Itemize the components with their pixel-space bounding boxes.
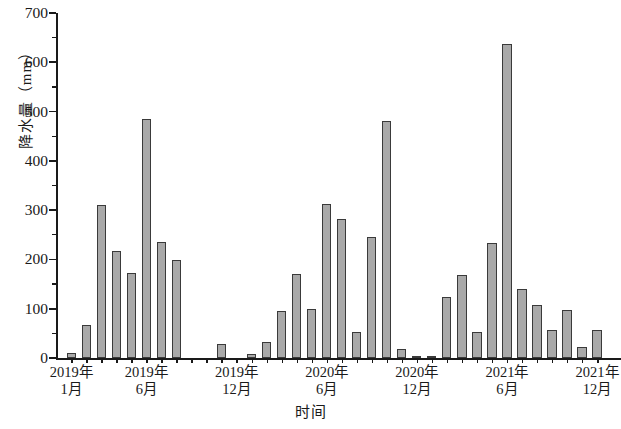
x-tick [492, 358, 493, 363]
x-tick-label-year: 2019年 [103, 364, 189, 381]
x-tick [342, 358, 343, 363]
x-axis-title: 时间 [0, 400, 621, 421]
x-tick [357, 358, 358, 363]
x-tick-label-month: 6月 [284, 381, 370, 398]
x-tick [552, 358, 553, 363]
x-tick [131, 358, 132, 363]
bar [97, 205, 106, 358]
bar [112, 251, 121, 358]
bar [472, 332, 481, 358]
bar [307, 309, 316, 358]
bar [322, 204, 331, 358]
x-tick-label-month: 12月 [193, 381, 279, 398]
x-tick-label-year: 2019年 [193, 364, 279, 381]
x-tick [206, 358, 207, 363]
bar [442, 297, 451, 358]
bar [217, 344, 226, 358]
x-tick-label: 2019年12月 [193, 364, 279, 398]
x-tick [161, 358, 162, 363]
x-tick-label-month: 6月 [103, 381, 189, 398]
y-tick-label: 700 [4, 5, 48, 21]
x-tick [462, 358, 463, 363]
x-tick [101, 358, 102, 363]
y-tick-major [49, 61, 56, 63]
y-tick-major [49, 111, 56, 113]
precipitation-bar-chart: 降水量（mm） 0100200300400500600700 2019年1月20… [0, 0, 621, 429]
bar [562, 310, 571, 358]
x-tick [236, 358, 237, 363]
plot-area: 0100200300400500600700 [56, 13, 621, 358]
bar [352, 332, 361, 358]
x-tick [297, 358, 298, 363]
x-tick [312, 358, 313, 363]
x-tick [522, 358, 523, 363]
y-tick-major [49, 259, 56, 261]
x-tick [71, 358, 72, 363]
bar [487, 243, 496, 358]
bar [337, 219, 346, 358]
bar [172, 260, 181, 358]
y-tick-label: 300 [4, 202, 48, 218]
x-tick-label-month: 12月 [554, 381, 621, 398]
x-tick [267, 358, 268, 363]
x-tick [116, 358, 117, 363]
x-tick-label: 2019年1月 [28, 364, 114, 398]
bar [517, 289, 526, 358]
y-tick-major [49, 357, 56, 359]
x-tick [567, 358, 568, 363]
x-tick [146, 358, 147, 363]
x-tick-label: 2020年12月 [374, 364, 460, 398]
x-tick [221, 358, 222, 363]
bar [502, 44, 511, 358]
x-tick-label: 2020年6月 [284, 364, 370, 398]
x-tick [191, 358, 192, 363]
bar [262, 342, 271, 358]
x-tick-label: 2021年6月 [464, 364, 550, 398]
bar [397, 349, 406, 358]
bar [367, 237, 376, 358]
y-tick-label: 600 [4, 54, 48, 70]
bar [142, 119, 151, 358]
x-tick [372, 358, 373, 363]
bar [67, 353, 76, 358]
x-tick [447, 358, 448, 363]
bar [532, 305, 541, 358]
bar [127, 273, 136, 358]
x-tick [507, 358, 508, 363]
bar-series [56, 13, 621, 358]
y-tick-major [49, 160, 56, 162]
bar [577, 347, 586, 358]
x-tick [176, 358, 177, 363]
bar [292, 274, 301, 358]
x-tick-label-year: 2021年 [554, 364, 621, 381]
x-tick [402, 358, 403, 363]
y-tick-label: 100 [4, 301, 48, 317]
bar [592, 330, 601, 358]
x-tick [282, 358, 283, 363]
x-tick [597, 358, 598, 363]
y-tick-label: 200 [4, 251, 48, 267]
x-tick [432, 358, 433, 363]
bar [412, 356, 421, 358]
y-tick-major [49, 12, 56, 14]
y-tick-label: 400 [4, 153, 48, 169]
x-tick-label: 2019年6月 [103, 364, 189, 398]
x-tick-label-year: 2020年 [284, 364, 370, 381]
x-tick [477, 358, 478, 363]
x-tick [86, 358, 87, 363]
x-tick-label-month: 12月 [374, 381, 460, 398]
x-tick [327, 358, 328, 363]
x-tick [417, 358, 418, 363]
x-tick-label-month: 1月 [28, 381, 114, 398]
x-tick [582, 358, 583, 363]
y-tick-major [49, 209, 56, 211]
bar [382, 121, 391, 358]
x-tick-label: 2021年12月 [554, 364, 621, 398]
x-tick-label-year: 2021年 [464, 364, 550, 381]
bar [457, 275, 466, 358]
x-tick [252, 358, 253, 363]
x-tick-label-year: 2020年 [374, 364, 460, 381]
bar [82, 325, 91, 359]
x-tick-label-month: 6月 [464, 381, 550, 398]
y-tick-label: 500 [4, 104, 48, 120]
